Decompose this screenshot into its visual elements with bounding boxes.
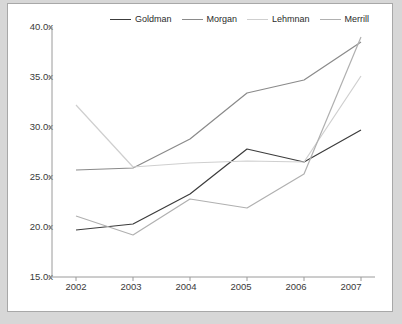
series-line-merrill — [76, 37, 361, 235]
series-line-goldman — [76, 130, 361, 230]
data-series-group — [76, 37, 361, 235]
plot-area — [0, 0, 402, 324]
chart-container: Goldman Morgan Lehmnan Merrill 40.0x 35.… — [0, 0, 402, 324]
